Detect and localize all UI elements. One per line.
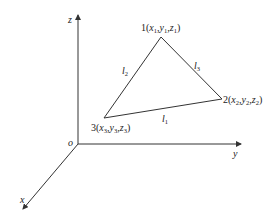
vertex-1-label: 1(x1,y1,z1) [141, 22, 180, 34]
x-axis-label: x [19, 194, 25, 205]
origin-label: o [68, 137, 73, 148]
triangle-3d-diagram: z y x o 1(x1,y1,z1) 2(x2,y2,z2) 3(x3,y3,… [0, 0, 274, 222]
x-axis [23, 144, 78, 209]
vertex-2-label: 2(x2,y2,z2) [223, 94, 262, 106]
z-axis-label: z [67, 14, 72, 25]
edge-l3-label: l3 [194, 60, 200, 72]
edge-l1-label: l1 [162, 113, 168, 125]
edge-l2-label: l2 [122, 65, 128, 77]
vertex-3-label: 3(x3,y3,z3) [91, 122, 130, 134]
y-axis-label: y [232, 148, 238, 159]
triangle [104, 37, 222, 118]
